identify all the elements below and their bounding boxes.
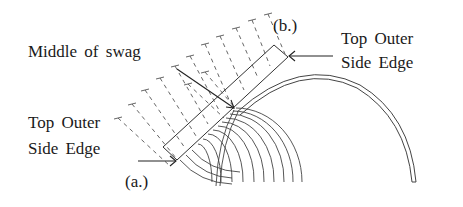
middle-of-swag-label: Middle of swag <box>28 42 141 61</box>
arrow-b <box>289 51 333 61</box>
a-marker-label: (a.) <box>125 172 148 191</box>
arrow-a <box>138 156 176 166</box>
left-side-edge-label: Side Edge <box>28 139 100 158</box>
swag-diagram: Middle of swag (b.) Top Outer Side Edge … <box>0 0 463 207</box>
right-side-edge-label: Side Edge <box>341 53 413 72</box>
pleat-lines <box>118 14 285 166</box>
left-top-outer-label: Top Outer <box>28 113 100 132</box>
right-top-outer-label: Top Outer <box>341 29 413 48</box>
b-marker-label: (b.) <box>273 16 297 35</box>
arrow-middle <box>177 69 234 108</box>
concentric-arcs <box>180 108 302 186</box>
tick-marks <box>114 13 272 119</box>
